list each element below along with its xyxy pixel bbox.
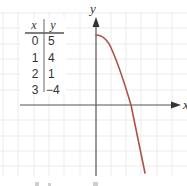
table-cell-y2: 1 xyxy=(48,67,55,81)
caption-fragments xyxy=(35,182,98,186)
y-axis-label: y xyxy=(88,1,96,16)
table-header-y: y xyxy=(49,18,56,32)
table-header-x: x xyxy=(30,18,37,32)
table-cell-x3: 3 xyxy=(32,83,39,97)
table-cell-y0: 5 xyxy=(48,34,55,48)
table-cell-y1: 4 xyxy=(48,51,55,65)
function-graph: x y 0 5 1 4 2 1 3 −4 x y xyxy=(0,0,187,186)
table-cell-y3: −4 xyxy=(46,83,60,97)
y-axis-arrow-icon xyxy=(93,17,100,27)
table-cell-x1: 1 xyxy=(32,51,39,65)
x-axis-arrow-icon xyxy=(171,102,181,109)
table-cell-x2: 2 xyxy=(32,67,39,81)
function-curve xyxy=(96,35,145,173)
x-axis-label: x xyxy=(182,97,187,112)
table-cell-x0: 0 xyxy=(32,34,39,48)
